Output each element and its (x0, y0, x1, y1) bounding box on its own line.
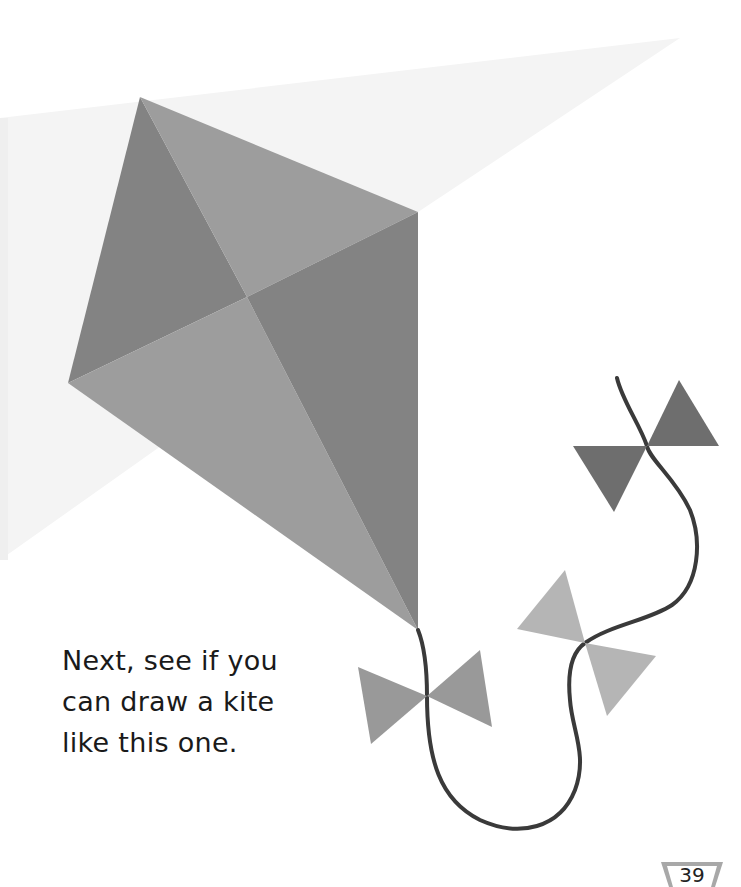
top-bow-left-wing (573, 446, 647, 512)
page-number: 39 (661, 863, 723, 887)
top-bow-right-wing (647, 380, 719, 446)
caption-line-2: can draw a kite (62, 681, 342, 722)
caption-line-1: Next, see if you (62, 640, 342, 681)
middle-bow-upper-wing (517, 570, 585, 643)
caption-line-3: like this one. (62, 722, 342, 763)
book-page: Next, see if you can draw a kite like th… (0, 0, 741, 887)
page-number-badge: 39 (661, 862, 723, 887)
lower-bow-right-wing (427, 650, 492, 727)
lower-bow-left-wing (358, 667, 427, 744)
middle-bow-lower-wing (585, 643, 656, 716)
instruction-caption: Next, see if you can draw a kite like th… (62, 640, 342, 763)
top-bow (573, 380, 719, 512)
left-edge-strip (0, 118, 8, 560)
